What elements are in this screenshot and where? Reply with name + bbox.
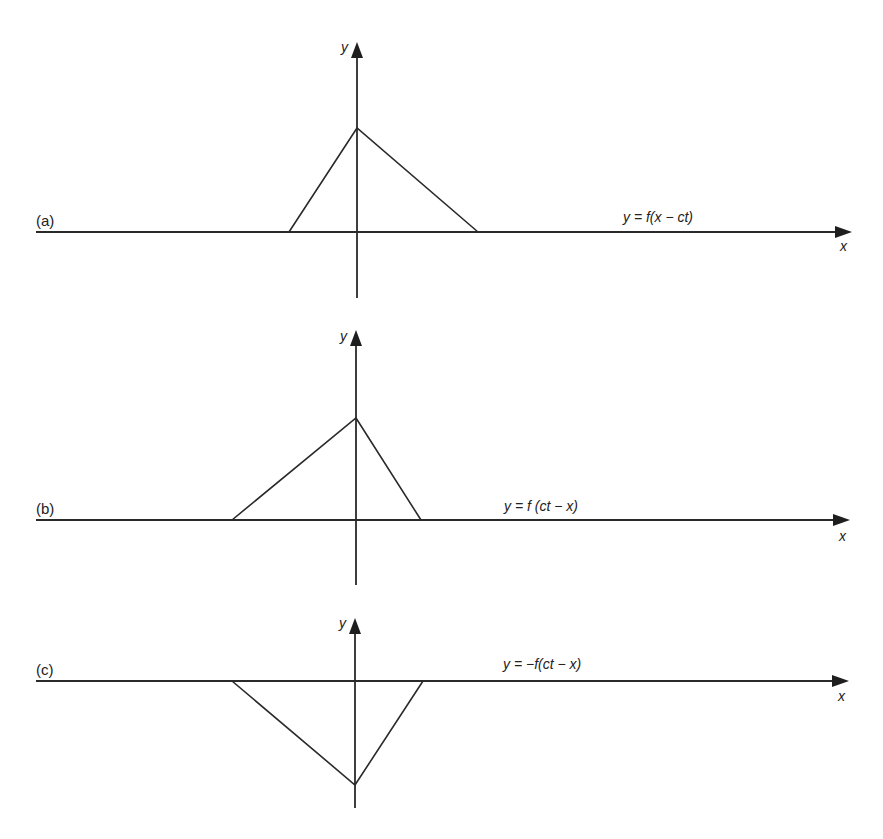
panel-label: (b) — [36, 500, 54, 517]
pulse-shape — [289, 128, 478, 232]
pulse-shape — [232, 418, 421, 520]
equation-label: y = f (ct − x) — [503, 498, 578, 514]
pulse-shape — [232, 681, 423, 785]
y-axis-arrow-icon — [349, 618, 361, 634]
panel-c: (c) y = −f(ct − x) x y — [36, 615, 849, 808]
y-axis-arrow-icon — [351, 42, 363, 58]
y-axis-arrow-icon — [350, 330, 362, 346]
x-axis-arrow-icon — [832, 675, 849, 687]
x-axis-arrow-icon — [835, 226, 852, 238]
y-axis-label: y — [340, 39, 349, 55]
panel-label: (a) — [36, 212, 54, 229]
x-axis-arrow-icon — [833, 514, 850, 526]
equation-label: y = −f(ct − x) — [502, 656, 581, 672]
y-axis-label: y — [339, 328, 348, 344]
panel-label: (c) — [36, 661, 54, 678]
equation-label: y = f(x − ct) — [622, 209, 693, 225]
y-axis-label: y — [338, 615, 347, 631]
panel-a: (a) y = f(x − ct) x y — [36, 39, 852, 298]
wave-reflection-diagram: (a) y = f(x − ct) x y (b) y = f (ct − x)… — [0, 0, 883, 839]
panel-b: (b) y = f (ct − x) x y — [36, 328, 850, 585]
x-axis-label: x — [837, 688, 846, 704]
x-axis-label: x — [839, 238, 848, 254]
x-axis-label: x — [838, 528, 847, 544]
